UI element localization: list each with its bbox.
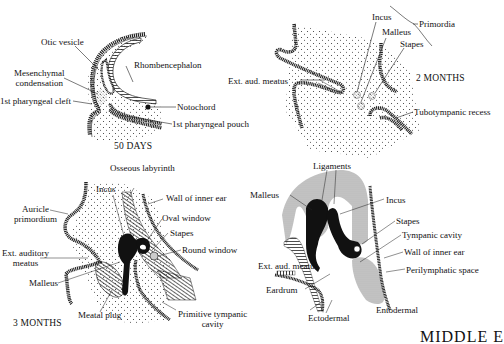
panel-3-months-drawing — [40, 182, 198, 325]
label-round-window: Round window — [182, 245, 237, 255]
label-tubotympanic-recess: Tubotympanic recess — [414, 107, 490, 117]
label-oval-window: Oval window — [162, 213, 211, 223]
label-malleus: Malleus — [29, 278, 58, 288]
label-wall-of-inner-ear: Wall of inner ear — [166, 193, 227, 203]
section-title: MIDDLE E — [420, 328, 504, 344]
label-primitive-tympanic-cavity: Primitive tympanic cavity — [178, 309, 247, 329]
label-first-pharyngeal-pouch: 1st pharyngeal pouch — [172, 119, 249, 129]
label-entodermal: Entodermal — [376, 305, 418, 315]
label-mesenchymal-condensation: Mesenchymal condensation — [14, 68, 64, 88]
label-otic-vesicle: Otic vesicle — [41, 37, 84, 47]
label-ext-aud-meatus: Ext. aud. meatus — [228, 76, 288, 86]
stage-label-50-days: 50 DAYS — [114, 141, 152, 151]
label-meatal-plug: Meatal plug — [78, 310, 121, 320]
label-incus: Incus — [386, 195, 406, 205]
label-rhombencephalon: Rhombencephalon — [134, 60, 201, 70]
label-auricle-primordium: Auricle primordium — [14, 204, 57, 224]
label-ext-aud-meatus: Ext. aud. meatus — [258, 261, 318, 271]
label-stapes: Stapes — [170, 228, 194, 238]
label-perilymphatic-space: Perilymphatic space — [406, 265, 479, 275]
label-ext-auditory-meatus: Ext. auditory meatus — [2, 248, 49, 268]
stage-label-2-months: 2 MONTHS — [416, 73, 465, 83]
label-ectodermal: Ectodermal — [308, 313, 349, 323]
label-malleus: Malleus — [250, 190, 279, 200]
label-stapes: Stapes — [396, 216, 420, 226]
label-osseous-labyrinth: Osseous labyrinth — [110, 163, 175, 173]
label-notochord: Notochord — [177, 102, 216, 112]
label-stapes: Stapes — [400, 39, 424, 49]
label-wall-of-inner-ear: Wall of inner ear — [404, 247, 465, 257]
label-malleus: Malleus — [382, 27, 411, 37]
panel-50-days-drawing — [64, 34, 176, 141]
label-first-pharyngeal-cleft: 1st pharyngeal cleft — [0, 96, 71, 106]
label-incus: Incus — [96, 184, 116, 194]
label-tympanic-cavity: Tympanic cavity — [402, 230, 462, 240]
label-primordia: Primordia — [419, 19, 455, 29]
label-ligaments: Ligaments — [313, 161, 351, 171]
label-incus: Incus — [372, 12, 392, 22]
label-eardrum: Eardrum — [266, 285, 298, 295]
stage-label-3-months: 3 MONTHS — [13, 318, 62, 328]
